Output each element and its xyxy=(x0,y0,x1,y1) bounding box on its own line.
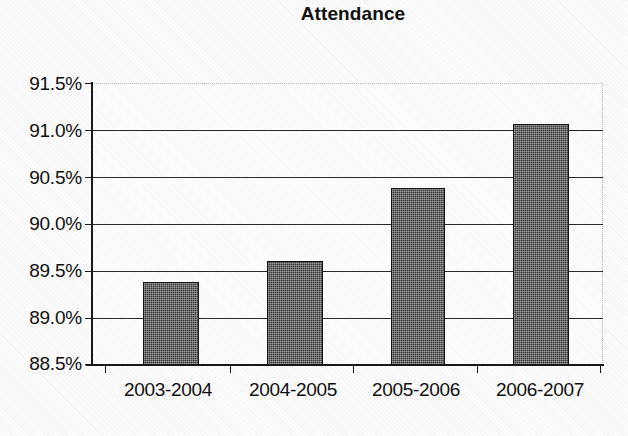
y-axis-tick-label: 90.5% xyxy=(0,167,82,189)
x-axis-label-2006-2007: 2006-2007 xyxy=(485,379,595,401)
x-axis-tick-mark xyxy=(600,365,601,373)
plot-area xyxy=(92,83,603,365)
bar-2005-2006 xyxy=(391,188,445,365)
chart-title: Attendance xyxy=(0,3,628,25)
y-axis-tick-label: 89.0% xyxy=(0,307,82,329)
bar-2006-2007 xyxy=(513,124,569,365)
chart-screenshot: Attendance 91.5% 91.0% 90.5% 90.0% 89.5%… xyxy=(0,0,628,436)
x-axis-line xyxy=(86,364,604,366)
y-axis-tick-label: 89.5% xyxy=(0,260,82,282)
x-axis-tick-mark xyxy=(230,365,231,373)
plot-border-top xyxy=(92,83,603,84)
y-axis-tick-label: 91.5% xyxy=(0,73,82,95)
x-axis-tick-mark xyxy=(105,365,106,373)
y-axis-line xyxy=(91,82,93,366)
x-axis-label-2005-2006: 2005-2006 xyxy=(361,379,471,401)
bar-2003-2004 xyxy=(143,282,199,365)
x-axis-label-2004-2005: 2004-2005 xyxy=(238,379,348,401)
x-axis-tick-mark xyxy=(477,365,478,373)
x-axis-label-2003-2004: 2003-2004 xyxy=(113,379,223,401)
bar-2004-2005 xyxy=(267,261,323,365)
y-axis-tick-label: 88.5% xyxy=(0,353,82,375)
y-axis-tick-label: 90.0% xyxy=(0,213,82,235)
y-axis-tick-label: 91.0% xyxy=(0,120,82,142)
x-axis-tick-mark xyxy=(353,365,354,373)
